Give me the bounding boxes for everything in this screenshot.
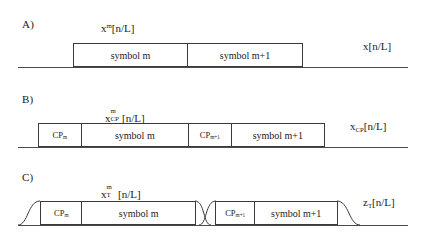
panel-c-block-row-first: CPm symbol m (40, 201, 196, 225)
panel-a-symbol-m-block: symbol m (74, 44, 188, 66)
panel-b-right-label-tail: [n/L] (364, 120, 387, 132)
ofdm-framing-diagram: A) xm[n/L] symbol m symbol m+1 x[n/L] B)… (0, 0, 429, 241)
panel-a-right-label: x[n/L] (363, 40, 391, 52)
panel-a-top-label: xm[n/L] (101, 22, 134, 34)
panel-c-letter: C) (22, 171, 33, 183)
panel-c-symbol-m-label: symbol m (119, 208, 159, 219)
panel-a-letter: A) (22, 18, 34, 30)
panel-b-right-label: xCP[n/L] (350, 120, 386, 132)
panel-b-top-label-subsup: mCP (111, 111, 123, 122)
panel-b-symbol-m-block: symbol m (82, 124, 189, 146)
panel-b-top-label-sup: m (111, 107, 116, 114)
panel-c-top-label-tail: [n/L] (118, 188, 141, 200)
panel-a-top-label-tail: [n/L] (112, 22, 135, 34)
panel-c-right-label: zT[n/L] (363, 196, 395, 208)
panel-c-cp-m-label: CPm (54, 208, 69, 218)
panel-a-right-label-tail: [n/L] (369, 40, 392, 52)
panel-c: C) xmT[n/L] CPm symbol m (0, 163, 429, 241)
panel-a-symbol-m1-label: symbol m+1 (220, 50, 270, 61)
panel-a: A) xm[n/L] symbol m symbol m+1 x[n/L] (0, 0, 429, 85)
left-taper-ramp (18, 201, 40, 225)
right-taper-ramp (337, 201, 360, 225)
panel-c-right-label-tail: [n/L] (372, 196, 395, 208)
panel-c-symbol-m1-label: symbol m+1 (271, 208, 321, 219)
panel-c-cp-m-block: CPm (41, 202, 82, 224)
panel-b-block-row: CPm symbol m CPm+1 symbol m+1 (38, 123, 325, 147)
mid-taper-down (195, 201, 211, 225)
panel-b-top-label-sub: CP (111, 115, 119, 122)
panel-b-cp-m1-block: CPm+1 (189, 124, 232, 146)
panel-b: B) xmCP[n/L] CPm symbol m CPm+1 symbol m… (0, 85, 429, 163)
panel-b-letter: B) (22, 93, 33, 105)
panel-c-top-label-subsup: mT (107, 187, 119, 198)
panel-c-block-row-second: CPm+1 symbol m+1 (215, 201, 338, 225)
mid-taper-up (199, 201, 216, 225)
panel-b-baseline (18, 147, 408, 148)
panel-b-symbol-m1-label: symbol m+1 (253, 130, 303, 141)
panel-b-symbol-m-label: symbol m (115, 130, 155, 141)
panel-b-cp-m-label: CPm (53, 130, 68, 140)
panel-c-symbol-m-block: symbol m (82, 202, 195, 224)
panel-b-symbol-m1-block: symbol m+1 (232, 124, 324, 146)
panel-a-baseline (18, 67, 408, 68)
panel-b-cp-m-block: CPm (39, 124, 82, 146)
panel-c-baseline (18, 225, 408, 226)
panel-a-symbol-m-label: symbol m (111, 50, 151, 61)
panel-a-block-row: symbol m symbol m+1 (73, 43, 303, 67)
panel-c-cp-m1-block: CPm+1 (216, 202, 255, 224)
panel-c-symbol-m1-block: symbol m+1 (255, 202, 337, 224)
panel-a-symbol-m1-block: symbol m+1 (188, 44, 302, 66)
panel-b-cp-m1-label: CPm+1 (200, 130, 220, 140)
panel-b-right-label-sub: CP (356, 126, 364, 133)
panel-c-top-label-sup: m (107, 183, 112, 190)
panel-c-cp-m1-label: CPm+1 (225, 208, 245, 218)
panel-c-top-label: xmT[n/L] (101, 187, 141, 200)
panel-c-top-label-sub: T (107, 191, 111, 198)
